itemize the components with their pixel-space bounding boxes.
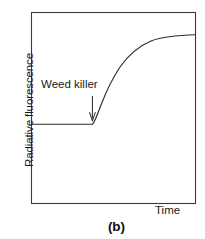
plot-frame	[32, 13, 196, 204]
weed-killer-annotation-label: Weed killer	[41, 78, 98, 90]
y-axis-label: Radiative fluorescence	[23, 30, 35, 190]
x-axis-label: Time	[155, 204, 180, 216]
panel-caption: (b)	[0, 219, 205, 234]
figure-panel-b: Radiative fluorescence Time Weed killer …	[0, 0, 205, 239]
